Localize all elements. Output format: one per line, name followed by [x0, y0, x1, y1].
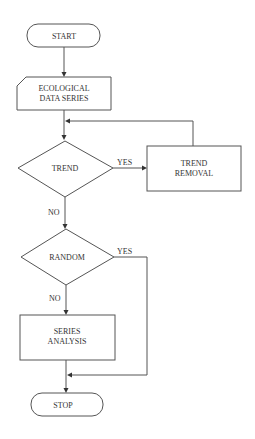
- arrowhead: [62, 72, 67, 77]
- start-label: START: [52, 32, 76, 41]
- data-label-line1: ECOLOGICAL: [38, 84, 89, 93]
- arrowhead: [142, 166, 147, 171]
- trend-decision-node: TREND: [18, 141, 113, 197]
- series-analysis-node: SERIES ANALYSIS: [20, 315, 115, 360]
- trend-yes-label: YES: [117, 158, 132, 167]
- trend-removal-line2: REMOVAL: [175, 169, 214, 178]
- start-node: START: [27, 24, 100, 47]
- arrowhead: [64, 388, 69, 393]
- random-yes-label: YES: [117, 247, 132, 256]
- arrowhead: [62, 135, 67, 140]
- trend-no-label: NO: [48, 208, 60, 217]
- random-decision-node: RANDOM: [21, 229, 114, 285]
- arrowhead: [64, 310, 69, 315]
- trend-label: TREND: [52, 164, 79, 173]
- stop-node: STOP: [31, 393, 103, 416]
- arrowhead: [63, 224, 68, 229]
- stop-label: STOP: [53, 401, 73, 410]
- series-analysis-line1: SERIES: [54, 327, 81, 336]
- arrowhead: [65, 119, 70, 124]
- random-label: RANDOM: [49, 253, 85, 262]
- series-analysis-line2: ANALYSIS: [48, 337, 87, 346]
- ecological-data-series-node: ECOLOGICAL DATA SERIES: [17, 77, 111, 110]
- arrowhead: [67, 373, 72, 378]
- flowchart: START ECOLOGICAL DATA SERIES TREND YES T…: [0, 0, 255, 439]
- random-no-label: NO: [49, 294, 61, 303]
- trend-removal-line1: TREND: [181, 159, 208, 168]
- data-label-line2: DATA SERIES: [40, 94, 89, 103]
- edge-trend-removal-feedback: [67, 121, 193, 146]
- trend-removal-node: TREND REMOVAL: [147, 146, 241, 191]
